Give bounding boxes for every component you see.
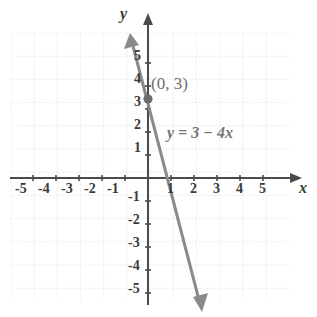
y-tick-label-2: 2 bbox=[134, 118, 141, 132]
x-tick-label-2: 2 bbox=[190, 182, 197, 196]
x-axis-label: x bbox=[299, 180, 307, 196]
y-tick-label-1: 1 bbox=[134, 141, 141, 155]
x-tick-label-4: 4 bbox=[236, 182, 243, 196]
x-tick-label-3: 3 bbox=[213, 182, 220, 196]
graph-canvas bbox=[0, 0, 317, 317]
x-tick-label--4: -4 bbox=[38, 182, 50, 196]
y-tick-label-5: 5 bbox=[134, 49, 141, 63]
point-annotation-label: (0, 3) bbox=[151, 75, 188, 92]
y-axis-arrow-icon bbox=[143, 13, 153, 25]
grid-lines bbox=[11, 33, 289, 300]
x-tick-label--3: -3 bbox=[61, 182, 73, 196]
y-axis-label: y bbox=[120, 6, 127, 22]
y-tick-label--1: -1 bbox=[128, 190, 140, 204]
point-marker-0-3 bbox=[143, 94, 152, 103]
coordinate-plane-figure: y x -5 -4 -3 -2 -1 1 2 3 4 5 5 4 3 2 1 -… bbox=[0, 0, 317, 317]
equation-annotation-label: y = 3 − 4x bbox=[167, 125, 233, 141]
x-tick-label-1: 1 bbox=[167, 182, 174, 196]
x-tick-label--2: -2 bbox=[84, 182, 96, 196]
y-tick-label--2: -2 bbox=[128, 213, 140, 227]
y-tick-label--5: -5 bbox=[128, 282, 140, 296]
y-tick-label--4: -4 bbox=[128, 259, 140, 273]
x-tick-label-5: 5 bbox=[259, 182, 266, 196]
x-tick-label--5: -5 bbox=[15, 182, 27, 196]
y-tick-label--3: -3 bbox=[128, 236, 140, 250]
y-tick-label-4: 4 bbox=[134, 72, 141, 86]
x-tick-label--1: -1 bbox=[107, 182, 119, 196]
y-tick-label-3: 3 bbox=[134, 95, 141, 109]
